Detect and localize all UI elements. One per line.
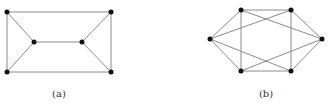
graph-a-vertex-top-left (5, 10, 10, 15)
graph-a-edge (82, 12, 111, 42)
graph-a-edge (7, 12, 34, 42)
graph-b-edge (210, 39, 241, 71)
graph-a-vertex-bottom-right (109, 70, 114, 75)
graph-a-edge (7, 42, 34, 72)
graph-a-vertex-top-right (109, 10, 114, 15)
graph-b-edge (291, 39, 322, 71)
graph-b-edge (210, 10, 291, 39)
graph-b-edge (241, 10, 322, 39)
graph-b-edge (210, 39, 291, 71)
graph-a-vertex-bottom-left (5, 70, 10, 75)
nodes-layer (5, 8, 325, 75)
graph-b-vertex-bottom-left (239, 69, 244, 74)
graph-b-edge (241, 39, 322, 71)
figure-b-caption: (b) (246, 88, 286, 99)
graph-a-vertex-inner-left (32, 40, 37, 45)
figure-a-caption: (a) (39, 88, 79, 99)
graph-b-vertex-left (208, 37, 213, 42)
graph-a-edge (82, 42, 111, 72)
graph-b-vertex-top-right (289, 8, 294, 13)
graph-b-vertex-bottom-right (289, 69, 294, 74)
edges-layer (7, 10, 322, 72)
graph-b-vertex-right (320, 37, 325, 42)
graph-b-edge (291, 10, 322, 39)
graph-a-vertex-inner-right (80, 40, 85, 45)
graph-b-edge (210, 10, 241, 39)
graph-b-vertex-top-left (239, 8, 244, 13)
